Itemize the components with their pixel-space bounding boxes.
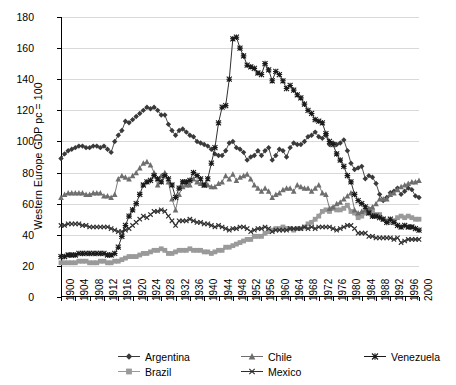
data-point-triangle [112, 191, 118, 197]
legend-marker-diamond-icon [118, 351, 140, 362]
data-point-square [126, 369, 132, 375]
data-point-diamond [373, 181, 378, 186]
data-point-triangle [230, 171, 236, 177]
data-point-square [417, 217, 422, 222]
data-point-star [262, 61, 268, 67]
data-point-star [298, 95, 304, 101]
data-point-star [173, 195, 179, 201]
data-point-star [280, 78, 286, 84]
data-point-triangle [252, 182, 258, 188]
legend-item-mexico[interactable]: Mexico [241, 366, 301, 378]
x-axis-tick-mark [104, 297, 105, 301]
data-point-star [169, 182, 175, 188]
legend-marker-triangle-icon [241, 351, 263, 362]
y-axis-tick-label: 20 [0, 261, 34, 271]
legend-item-chile[interactable]: Chile [241, 351, 292, 363]
x-axis-tick-label: 2000 [423, 279, 434, 301]
data-point-star [287, 83, 293, 89]
legend-marker-x-icon [241, 366, 263, 377]
data-point-star [130, 207, 136, 213]
legend-item-argentina[interactable]: Argentina [118, 351, 190, 363]
data-point-star [166, 176, 172, 182]
y-axis-tick-label: 60 [0, 199, 34, 209]
x-axis-tick-mark [176, 297, 177, 301]
data-point-star [259, 72, 265, 78]
chart-figure: Western Europe GDP pc = 100 020406080100… [0, 0, 456, 385]
x-axis-tick-mark [405, 297, 406, 301]
y-axis-tick-label: 80 [0, 168, 34, 178]
data-point-star [209, 160, 215, 166]
data-point-star [266, 67, 272, 73]
data-point-diamond [166, 122, 171, 127]
x-axis-tick-mark [261, 297, 262, 301]
x-axis-tick-mark [161, 297, 162, 301]
legend-marker-square-icon [118, 366, 140, 377]
x-axis-tick-mark [118, 297, 119, 301]
data-point-star [334, 151, 340, 157]
data-point-star [345, 173, 351, 179]
data-point-x [173, 223, 177, 227]
data-point-star [212, 145, 218, 151]
data-point-star [372, 353, 379, 360]
data-point-triangle [316, 182, 322, 188]
data-point-diamond [126, 353, 132, 359]
data-point-diamond [112, 139, 117, 144]
legend-item-venezuela[interactable]: Venezuela [364, 351, 440, 363]
x-axis-tick-mark [319, 297, 320, 301]
data-point-triangle [320, 190, 326, 196]
y-axis-title: Western Europe GDP pc = 100 [32, 26, 44, 286]
data-point-star [320, 120, 326, 126]
x-axis-tick-mark [419, 297, 420, 301]
series-layer [61, 17, 419, 297]
data-point-x [170, 219, 174, 223]
x-axis-tick-mark [390, 297, 391, 301]
data-point-diamond [284, 154, 289, 159]
plot-area [61, 17, 419, 297]
y-axis-tick-label: 120 [0, 105, 34, 115]
y-axis-tick-label: 0 [0, 292, 34, 302]
data-point-triangle [244, 171, 250, 177]
x-axis-tick-mark [347, 297, 348, 301]
x-axis-tick-mark [61, 297, 62, 301]
x-axis-tick-mark [204, 297, 205, 301]
x-axis-tick-mark [90, 297, 91, 301]
y-axis-tick-label: 140 [0, 74, 34, 84]
series-argentina [58, 105, 421, 204]
legend-label: Brazil [145, 366, 171, 378]
data-point-x [352, 226, 356, 230]
data-point-star [302, 101, 308, 107]
data-point-star [416, 227, 422, 233]
data-point-star [352, 192, 358, 198]
data-point-star [158, 179, 164, 185]
data-point-star [176, 185, 182, 191]
data-point-triangle [294, 182, 300, 188]
chart-legend: ArgentinaChileVenezuelaBrazilMexico [118, 349, 438, 379]
data-point-diamond [348, 161, 353, 166]
data-point-star [291, 87, 297, 93]
data-point-x [249, 369, 254, 374]
data-point-diamond [345, 148, 350, 153]
y-axis-tick-label: 160 [0, 43, 34, 53]
data-point-triangle [144, 159, 150, 165]
legend-item-brazil[interactable]: Brazil [118, 366, 171, 378]
x-axis-tick-mark [362, 297, 363, 301]
data-point-star [348, 179, 354, 185]
data-point-x [166, 214, 170, 218]
data-point-star [341, 164, 347, 170]
x-axis-tick-mark [247, 297, 248, 301]
x-axis-tick-mark [190, 297, 191, 301]
data-point-star [198, 176, 204, 182]
data-point-triangle [249, 353, 256, 360]
x-axis-tick-mark [75, 297, 76, 301]
data-point-triangle [219, 179, 225, 185]
legend-label: Venezuela [391, 351, 440, 363]
data-point-star [123, 223, 129, 229]
x-axis-tick-mark [276, 297, 277, 301]
data-point-star [363, 204, 369, 210]
x-axis-tick-mark [333, 297, 334, 301]
data-point-star [337, 157, 343, 163]
y-axis-tick-label: 180 [0, 12, 34, 22]
legend-label: Chile [268, 351, 292, 363]
data-point-square [316, 214, 321, 219]
data-point-triangle [173, 207, 179, 213]
